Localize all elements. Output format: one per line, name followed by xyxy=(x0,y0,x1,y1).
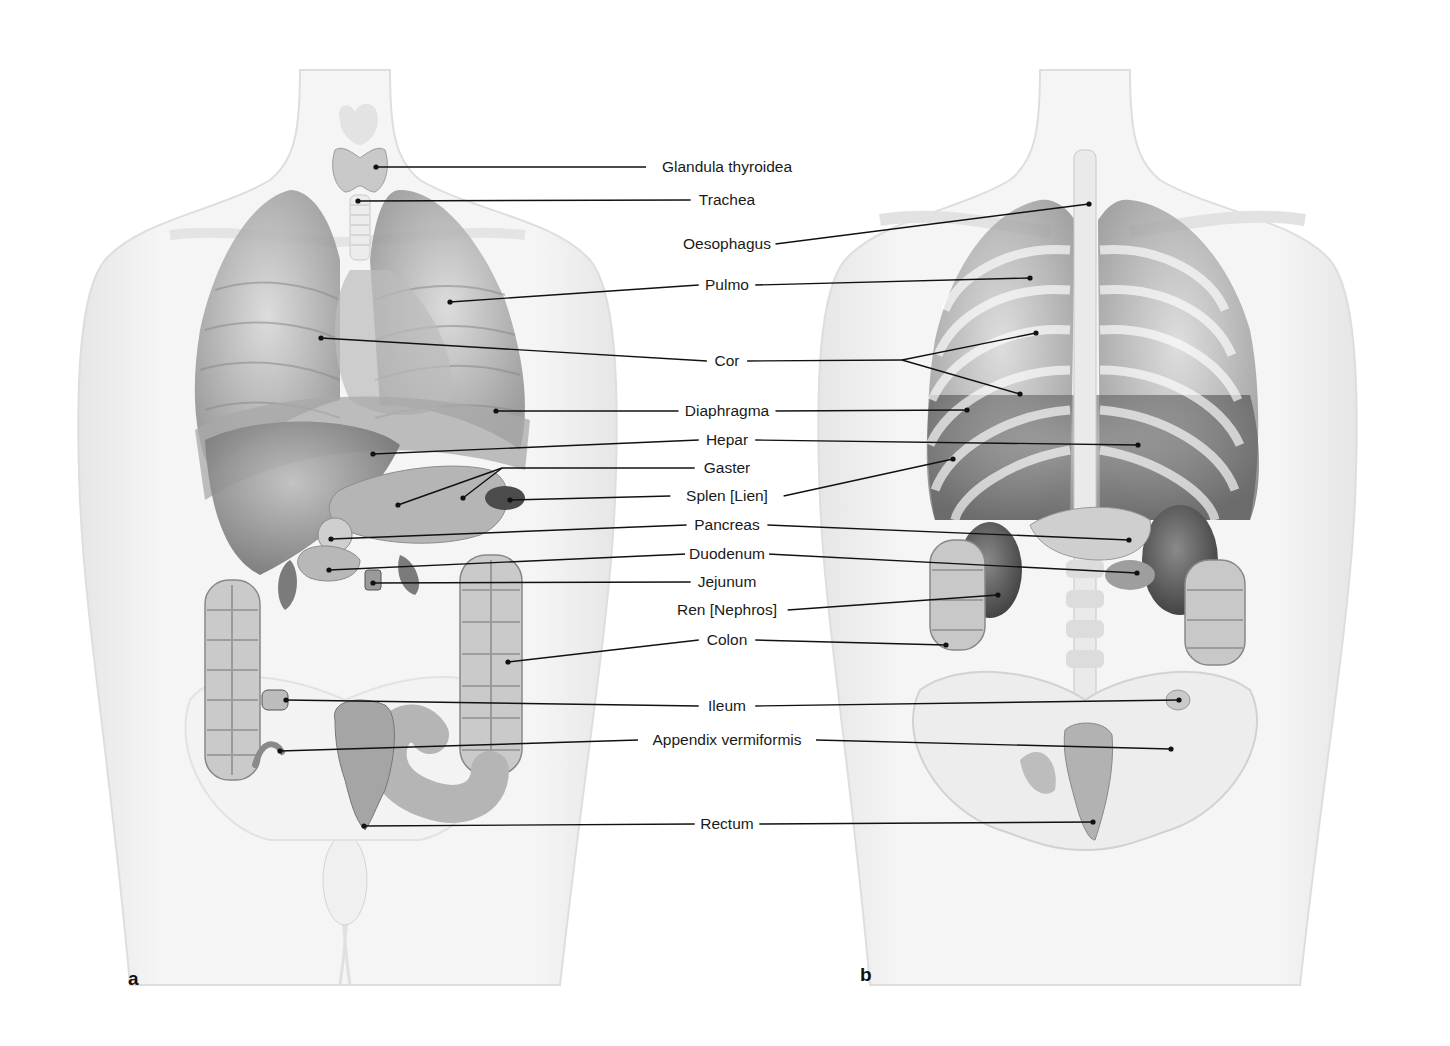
colon-right-b xyxy=(930,540,985,650)
label-cor: Cor xyxy=(711,352,744,370)
colon-left-b xyxy=(1185,560,1245,665)
colon-ascending-a xyxy=(205,580,260,780)
label-hepar: Hepar xyxy=(702,431,752,449)
label-appendix-vermiformis: Appendix vermiformis xyxy=(648,731,805,749)
panel-letter-b: b xyxy=(860,964,872,986)
label-pancreas: Pancreas xyxy=(690,516,763,534)
label-diaphragma: Diaphragma xyxy=(681,402,773,420)
label-trachea: Trachea xyxy=(695,191,759,209)
posterior-body xyxy=(818,70,1356,985)
label-splen-lien: Splen [Lien] xyxy=(682,487,772,505)
panel-letter-a: a xyxy=(128,968,139,990)
colon-descending-a xyxy=(460,555,522,775)
label-jejunum: Jejunum xyxy=(694,573,761,591)
label-duodenum: Duodenum xyxy=(685,545,769,563)
anterior-body xyxy=(78,70,616,985)
label-rectum: Rectum xyxy=(696,815,757,833)
label-glandula-thyroidea: Glandula thyroidea xyxy=(658,158,796,176)
label-ileum: Ileum xyxy=(704,697,750,715)
duodenum-b xyxy=(1105,560,1155,590)
label-pulmo: Pulmo xyxy=(701,276,753,294)
spleen-a xyxy=(485,486,525,510)
label-ren-nephros: Ren [Nephros] xyxy=(673,601,781,619)
label-colon: Colon xyxy=(703,631,752,649)
label-gaster: Gaster xyxy=(700,459,755,477)
label-oesophagus: Oesophagus xyxy=(679,235,775,253)
genitals xyxy=(323,835,367,925)
jejunum-a xyxy=(365,570,381,590)
